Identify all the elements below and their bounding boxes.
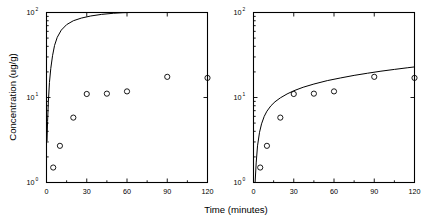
x-tick-label: 0 <box>252 187 256 196</box>
y-tick-label-exponent: 0 <box>36 177 39 182</box>
x-tick-label: 60 <box>123 187 131 196</box>
y-tick-label: 10 <box>234 93 242 102</box>
x-tick-label: 30 <box>290 187 298 196</box>
y-tick-label-exponent: 1 <box>243 92 246 97</box>
y-tick-label: 10 <box>27 178 35 187</box>
y-tick-label: 10 <box>234 178 242 187</box>
y-tick-label-exponent: 2 <box>243 7 246 12</box>
y-tick-label: 10 <box>27 93 35 102</box>
x-axis-title: Time (minutes) <box>204 204 268 215</box>
y-axis-title: Concentration (ug/g) <box>7 53 18 140</box>
x-tick-label: 90 <box>370 187 378 196</box>
dual-panel-log-scatter-figure: 0306090120100101102 0306090120100101102 … <box>0 0 433 220</box>
x-tick-label: 90 <box>163 187 171 196</box>
figure-background <box>0 0 433 220</box>
x-tick-label: 30 <box>83 187 91 196</box>
x-tick-label: 0 <box>45 187 49 196</box>
x-tick-label: 120 <box>202 187 214 196</box>
x-tick-label: 120 <box>409 187 421 196</box>
x-tick-label: 60 <box>330 187 338 196</box>
y-tick-label-exponent: 2 <box>36 7 39 12</box>
figure-container: 0306090120100101102 0306090120100101102 … <box>0 0 433 220</box>
y-tick-label-exponent: 0 <box>243 177 246 182</box>
y-tick-label: 10 <box>27 8 35 17</box>
y-tick-label: 10 <box>234 8 242 17</box>
y-tick-label-exponent: 1 <box>36 92 39 97</box>
